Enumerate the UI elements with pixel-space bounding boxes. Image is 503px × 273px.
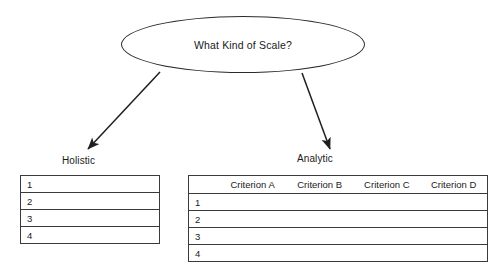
branch-label-analytic: Analytic — [297, 153, 333, 164]
analytic-cell — [219, 245, 286, 262]
analytic-row-number: 2 — [189, 211, 220, 228]
analytic-column-header: Criterion A — [219, 176, 286, 194]
analytic-cell — [420, 245, 487, 262]
decision-node-ellipse: What Kind of Scale? — [121, 16, 365, 73]
holistic-row-number: 4 — [21, 227, 160, 244]
analytic-cell — [353, 211, 420, 228]
analytic-row-number: 3 — [189, 228, 220, 245]
analytic-cell — [286, 245, 353, 262]
branch-label-holistic: Holistic — [62, 155, 95, 166]
analytic-cell — [353, 194, 420, 211]
arrow-to-holistic — [88, 72, 160, 149]
table-row: 2 — [189, 211, 488, 228]
holistic-row-number: 3 — [21, 210, 160, 227]
table-row: 1 — [189, 194, 488, 211]
analytic-cell — [353, 245, 420, 262]
analytic-cell — [420, 211, 487, 228]
diagram-canvas: What Kind of Scale? Holistic Analytic 1 … — [0, 0, 503, 273]
decision-node-label: What Kind of Scale? — [194, 39, 292, 51]
table-row: 3 — [189, 228, 488, 245]
analytic-cell — [286, 228, 353, 245]
table-row: 4 — [21, 227, 160, 244]
analytic-table-head: Criterion A Criterion B Criterion C Crit… — [189, 176, 488, 194]
table-row: 4 — [189, 245, 488, 262]
analytic-column-header: Criterion C — [353, 176, 420, 194]
analytic-cell — [219, 211, 286, 228]
table-row: 3 — [21, 210, 160, 227]
analytic-rownum-header — [189, 176, 220, 194]
arrow-to-analytic — [302, 73, 330, 149]
analytic-row-number: 1 — [189, 194, 220, 211]
analytic-cell — [286, 211, 353, 228]
analytic-column-header: Criterion B — [286, 176, 353, 194]
holistic-row-number: 2 — [21, 193, 160, 210]
analytic-cell — [286, 194, 353, 211]
analytic-cell — [219, 194, 286, 211]
holistic-table-body: 1 2 3 4 — [21, 176, 160, 244]
table-row: 2 — [21, 193, 160, 210]
analytic-cell — [353, 228, 420, 245]
table-header-row: Criterion A Criterion B Criterion C Crit… — [189, 176, 488, 194]
analytic-table-body: 1 2 3 4 — [189, 194, 488, 262]
analytic-cell — [219, 228, 286, 245]
analytic-column-header: Criterion D — [420, 176, 487, 194]
analytic-row-number: 4 — [189, 245, 220, 262]
table-row: 1 — [21, 176, 160, 193]
analytic-cell — [420, 228, 487, 245]
holistic-scale-table: 1 2 3 4 — [20, 175, 160, 244]
holistic-row-number: 1 — [21, 176, 160, 193]
analytic-cell — [420, 194, 487, 211]
analytic-scale-table: Criterion A Criterion B Criterion C Crit… — [188, 175, 488, 262]
